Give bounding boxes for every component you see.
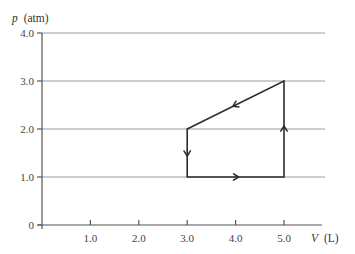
series: [184, 81, 287, 180]
x-tick-label: 2.0: [132, 232, 146, 244]
y-tick-label: 1.0: [20, 171, 34, 183]
x-tick-label: 1.0: [84, 232, 98, 244]
ticks: 01.02.03.04.01.02.03.04.05.0: [20, 27, 291, 244]
y-axis-symbol: p: [11, 12, 18, 25]
x-tick-label: 4.0: [229, 232, 243, 244]
x-tick-label: 5.0: [277, 232, 291, 244]
pv-diagram: 01.02.03.04.01.02.03.04.05.0 p (atm) V (…: [0, 0, 355, 254]
y-axis-unit: (atm): [24, 12, 49, 25]
y-tick-label: 2.0: [20, 123, 34, 135]
x-axis-title: V (L): [311, 232, 339, 245]
x-axis-symbol: V: [311, 232, 320, 244]
y-axis-title: p (atm): [11, 12, 49, 25]
y-tick-label: 4.0: [20, 27, 34, 39]
y-tick-label: 0: [29, 219, 35, 231]
x-axis-unit: (L): [324, 232, 339, 245]
x-tick-label: 3.0: [180, 232, 194, 244]
gridlines: [42, 33, 325, 177]
y-tick-label: 3.0: [20, 75, 34, 87]
axes: [38, 33, 322, 229]
